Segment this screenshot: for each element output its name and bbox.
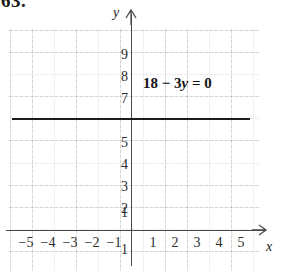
- equation-coefficient: 3: [174, 75, 182, 91]
- y-axis: [131, 14, 132, 266]
- x-axis-arrow-icon: [252, 219, 268, 241]
- y-tick-label: 9: [112, 48, 128, 62]
- x-tick-label: 3: [189, 236, 205, 250]
- y-tick-label-negative-one: 1: [121, 243, 128, 257]
- x-axis: [6, 230, 264, 231]
- x-tick-label: −1: [106, 236, 122, 250]
- equation-lhs-constant: 18: [143, 75, 158, 91]
- y-tick-label: 4: [112, 158, 128, 172]
- x-tick-label: 5: [233, 236, 249, 250]
- y-tick-label: 7: [112, 92, 128, 106]
- y-tick-label: 5: [112, 136, 128, 150]
- equation-annotation: 18 − 3y = 0: [143, 75, 212, 92]
- graphed-line: [12, 118, 250, 120]
- equation-rhs: 0: [204, 75, 212, 91]
- equation-equals-sign: =: [192, 75, 201, 91]
- problem-number: 63.: [1, 0, 26, 10]
- y-tick-label: 1: [112, 206, 128, 220]
- x-tick-label: −4: [40, 236, 56, 250]
- x-tick-label: 1: [145, 236, 161, 250]
- x-axis-label: x: [266, 239, 272, 255]
- graph-figure: 63. y x 18 − 3y = 0 98754321−5−4−3−2−112…: [0, 0, 284, 271]
- y-tick-label: 3: [112, 180, 128, 194]
- y-axis-arrow-icon: [120, 8, 142, 26]
- x-tick-label: 2: [167, 236, 183, 250]
- y-tick-label: 8: [112, 70, 128, 84]
- x-tick-label: −5: [18, 236, 34, 250]
- x-tick-label: −3: [62, 236, 78, 250]
- x-tick-label: 4: [211, 236, 227, 250]
- x-tick-label: −2: [84, 236, 100, 250]
- y-axis-label: y: [113, 5, 119, 21]
